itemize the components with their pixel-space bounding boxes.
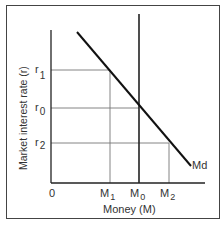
money-demand-curve bbox=[77, 32, 191, 166]
tick-M0: M0 bbox=[130, 187, 145, 202]
tick-M1: M1 bbox=[100, 187, 115, 202]
money-market-diagram: r1 r0 r2 0 M1 M0 M2 Md Money (M) Market … bbox=[0, 0, 224, 229]
guide-lines bbox=[51, 70, 169, 183]
x-axis-title: Money (M) bbox=[103, 203, 156, 215]
tick-origin: 0 bbox=[49, 187, 55, 199]
curve-label-md: Md bbox=[192, 159, 207, 171]
tick-r2: r2 bbox=[35, 136, 46, 151]
y-axis-title: Market interest rate (r) bbox=[17, 66, 29, 170]
tick-M2: M2 bbox=[160, 187, 175, 202]
tick-r1: r1 bbox=[35, 63, 46, 81]
tick-r0: r0 bbox=[35, 101, 46, 117]
